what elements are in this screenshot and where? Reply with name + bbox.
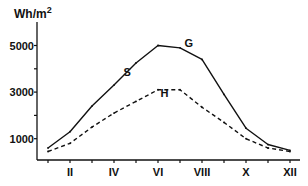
data-point-h: [113, 112, 115, 114]
y-axis-label-main: Wh/m: [14, 7, 47, 21]
series-line-h: [48, 90, 290, 152]
data-point-g: [47, 147, 49, 149]
data-point-h: [135, 101, 137, 103]
data-point-h: [245, 138, 247, 140]
data-point-h: [47, 151, 49, 153]
data-point-h: [179, 89, 181, 91]
x-tick-label: IV: [109, 166, 120, 178]
y-tick-label: 3000: [10, 86, 34, 98]
y-tick-label: 1000: [10, 133, 34, 145]
y-axis-label-superscript: 2: [47, 5, 52, 15]
y-tick-label: 5000: [10, 40, 34, 52]
data-point-h: [201, 106, 203, 108]
y-axis-label: Wh/m2: [14, 5, 52, 21]
text-layer: 100030005000IIIVVIVIIIXXIIWh/m2GSH: [10, 5, 297, 178]
annotation-s: S: [124, 66, 131, 78]
data-point-g: [201, 59, 203, 61]
data-point-g: [245, 127, 247, 129]
chart: 100030005000IIIVVIVIIIXXIIWh/m2GSH: [0, 0, 308, 186]
data-point-h: [69, 142, 71, 144]
x-tick-label: II: [67, 166, 73, 178]
data-point-g: [157, 45, 159, 47]
data-point-g: [91, 105, 93, 107]
series-layer: [47, 45, 291, 153]
data-point-g: [179, 47, 181, 49]
x-tick-label: XII: [283, 166, 296, 178]
data-point-g: [223, 94, 225, 96]
data-point-g: [267, 144, 269, 146]
x-tick-label: VIII: [194, 166, 211, 178]
data-point-h: [91, 126, 93, 128]
annotation-g: G: [185, 37, 194, 49]
data-point-g: [113, 84, 115, 86]
data-point-h: [267, 147, 269, 149]
data-point-g: [69, 131, 71, 133]
x-tick-label: VI: [153, 166, 163, 178]
data-point-h: [223, 121, 225, 123]
series-line-g: [48, 46, 290, 151]
data-point-h: [157, 89, 159, 91]
x-tick-label: X: [242, 166, 250, 178]
data-point-g: [135, 62, 137, 64]
annotation-h: H: [161, 87, 169, 99]
data-point-h: [289, 151, 291, 153]
